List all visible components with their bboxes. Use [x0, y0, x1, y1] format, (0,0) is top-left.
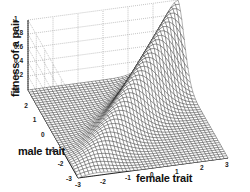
y-tick: -1 [49, 146, 55, 153]
z-tick: 0.2 [14, 71, 23, 78]
z-tick: 0.4 [14, 57, 23, 64]
x-tick: 1 [175, 168, 179, 175]
y-tick: 3 [16, 87, 20, 94]
x-tick: -3 [75, 181, 81, 188]
y-tick: 0 [41, 131, 45, 138]
x-tick: 3 [225, 161, 229, 168]
z-tick: 0.6 [14, 43, 23, 50]
x-axis-label: female trait [136, 172, 192, 184]
y-axis-label: male trait [18, 145, 65, 157]
surface-plot [0, 0, 250, 192]
y-tick: -2 [58, 160, 64, 167]
z-tick: 0.8 [14, 29, 23, 36]
y-tick: 2 [24, 102, 28, 109]
y-tick: -3 [66, 175, 72, 182]
x-tick: 0 [150, 171, 154, 178]
z-tick: 1 [14, 15, 18, 22]
x-tick: 2 [200, 164, 204, 171]
y-tick: 1 [33, 116, 37, 123]
x-tick: -2 [100, 178, 106, 185]
x-tick: -1 [125, 174, 131, 181]
